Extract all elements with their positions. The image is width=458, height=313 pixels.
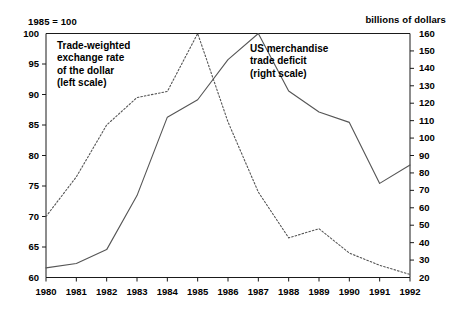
left-axis-tick-label: 60 bbox=[13, 272, 39, 283]
right-axis-tick-label: 160 bbox=[419, 28, 449, 39]
x-axis-tick-label: 1982 bbox=[90, 286, 124, 297]
right-axis-tick-label: 120 bbox=[419, 97, 449, 108]
left-axis-tick-label: 65 bbox=[13, 241, 39, 252]
x-axis-tick-label: 1990 bbox=[332, 286, 366, 297]
legend-trade-deficit-line3: (right scale) bbox=[250, 68, 328, 80]
right-axis-tick-label: 90 bbox=[419, 150, 449, 161]
x-axis-tick-label: 1980 bbox=[29, 286, 63, 297]
left-axis-tick-label: 90 bbox=[13, 89, 39, 100]
right-axis-tick-label: 40 bbox=[419, 237, 449, 248]
x-axis-tick-label: 1992 bbox=[393, 286, 427, 297]
left-axis-tick-label: 100 bbox=[13, 28, 39, 39]
legend-trade-deficit-line1: US merchandise bbox=[250, 43, 328, 55]
right-axis-tick-label: 80 bbox=[419, 167, 449, 178]
left-axis-tick-label: 95 bbox=[13, 58, 39, 69]
x-axis-tick-label: 1988 bbox=[272, 286, 306, 297]
right-axis-tick-label: 50 bbox=[419, 219, 449, 230]
legend-exchange-rate: Trade-weighted exchange rate of the doll… bbox=[57, 40, 130, 90]
right-axis-tick-label: 140 bbox=[419, 62, 449, 73]
legend-exchange-rate-line4: (left scale) bbox=[57, 77, 130, 89]
right-axis-tick-label: 30 bbox=[419, 254, 449, 265]
x-axis-tick-label: 1991 bbox=[363, 286, 397, 297]
right-axis-tick-label: 130 bbox=[419, 80, 449, 91]
right-axis-tick-label: 100 bbox=[419, 132, 449, 143]
x-axis-tick-label: 1983 bbox=[120, 286, 154, 297]
right-axis-units-label: billions of dollars bbox=[365, 14, 446, 25]
chart-figure: 1985 = 100 billions of dollars Trade-wei… bbox=[0, 0, 458, 313]
x-axis-tick-label: 1986 bbox=[211, 286, 245, 297]
x-axis-tick-label: 1989 bbox=[302, 286, 336, 297]
right-axis-tick-label: 20 bbox=[419, 272, 449, 283]
legend-exchange-rate-line3: of the dollar bbox=[57, 65, 130, 77]
x-axis-tick-label: 1981 bbox=[59, 286, 93, 297]
left-axis-tick-label: 85 bbox=[13, 119, 39, 130]
left-axis-tick-label: 75 bbox=[13, 180, 39, 191]
left-axis-units-label: 1985 = 100 bbox=[28, 16, 77, 27]
legend-trade-deficit-line2: trade deficit bbox=[250, 55, 328, 67]
right-axis-tick-label: 110 bbox=[419, 115, 449, 126]
legend-trade-deficit: US merchandise trade deficit (right scal… bbox=[250, 43, 328, 80]
right-axis-tick-label: 70 bbox=[419, 184, 449, 195]
x-axis-tick-label: 1987 bbox=[241, 286, 275, 297]
left-axis-tick-label: 80 bbox=[13, 150, 39, 161]
x-axis-tick-label: 1985 bbox=[181, 286, 215, 297]
right-axis-tick-label: 60 bbox=[419, 202, 449, 213]
right-axis-tick-label: 150 bbox=[419, 45, 449, 56]
legend-exchange-rate-line1: Trade-weighted bbox=[57, 40, 130, 52]
left-axis-tick-label: 70 bbox=[13, 211, 39, 222]
x-axis-tick-label: 1984 bbox=[150, 286, 184, 297]
legend-exchange-rate-line2: exchange rate bbox=[57, 52, 130, 64]
